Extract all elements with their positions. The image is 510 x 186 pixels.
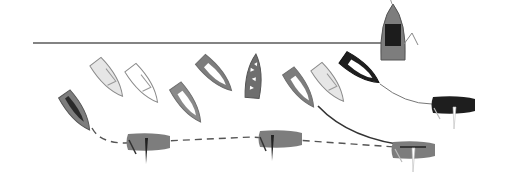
boat-b8: [310, 62, 349, 106]
curve-to-lower-right-boat: [318, 106, 412, 146]
committee-cabin: [385, 24, 401, 46]
boat-b4: [169, 82, 207, 127]
boat-b9: [339, 51, 384, 89]
committee-flag-icon: [404, 33, 418, 45]
boat-b1: [58, 90, 96, 135]
boat-b2: [89, 57, 128, 101]
sail-icon: [412, 148, 415, 172]
sailing-diagram: [0, 0, 510, 186]
sail-icon: [453, 107, 456, 129]
committee-boat: [381, 4, 406, 60]
boat-b11: [127, 133, 171, 164]
boat-b13: [392, 141, 436, 172]
committee-mast-icon: [390, 0, 392, 4]
boat-b10: [432, 96, 476, 129]
curve-to-black-boat: [380, 84, 432, 104]
boat-b6: [244, 53, 263, 98]
sail-icon: [271, 135, 274, 161]
boat-b5: [195, 54, 237, 96]
boat-b3: [124, 63, 163, 107]
sail-icon: [145, 138, 148, 164]
boat-b12: [259, 130, 303, 161]
